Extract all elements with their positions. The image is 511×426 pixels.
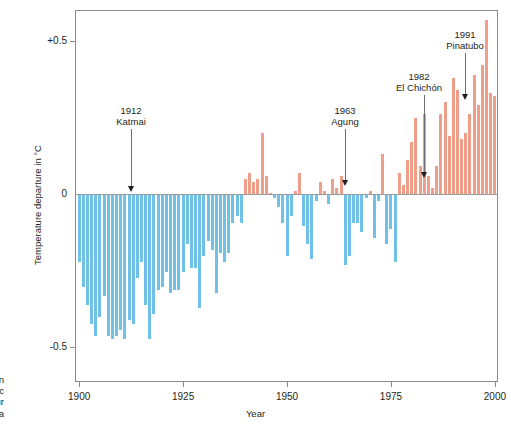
bar	[394, 195, 397, 262]
bar	[427, 176, 430, 194]
bar	[306, 195, 309, 244]
bar	[323, 191, 326, 194]
bar	[493, 96, 496, 194]
bar	[439, 114, 442, 194]
bar	[286, 195, 289, 256]
bar	[161, 195, 164, 287]
bar	[414, 118, 417, 195]
bar	[373, 195, 376, 238]
annotation-year: 1912	[71, 105, 191, 116]
bar	[211, 195, 214, 250]
annotation-arrowhead-icon	[462, 94, 468, 100]
bar	[94, 195, 97, 336]
bar	[82, 195, 85, 287]
bar	[315, 195, 318, 201]
bar	[98, 195, 101, 317]
bar	[444, 102, 447, 194]
x-tick-label: 1975	[366, 391, 416, 402]
bar	[256, 179, 259, 194]
bar	[136, 195, 139, 278]
figure-temperature-departure: ten nic fur a Temperature departure in °…	[0, 0, 511, 426]
bar	[273, 195, 276, 198]
bar	[381, 154, 384, 194]
bar	[144, 195, 147, 305]
bar	[169, 195, 172, 293]
bar	[198, 195, 201, 308]
bar	[269, 193, 272, 194]
annotation-event: El Chichón	[359, 82, 479, 93]
bar	[435, 166, 438, 194]
bar	[460, 139, 463, 194]
bar	[78, 195, 81, 262]
bar	[456, 90, 459, 194]
bar	[448, 136, 451, 194]
bar	[252, 182, 255, 194]
bar	[227, 195, 230, 253]
bar	[477, 105, 480, 194]
x-tick-mark	[183, 382, 184, 387]
annotation-arrowhead-icon	[421, 172, 427, 178]
bar	[115, 195, 118, 336]
bar	[294, 191, 297, 194]
y-tick-label: +0.5	[27, 35, 67, 46]
bar	[431, 188, 434, 194]
bar	[281, 195, 284, 223]
annotation-event: Katmai	[71, 116, 191, 127]
bar	[290, 195, 293, 216]
bar	[335, 188, 338, 194]
bar	[356, 195, 359, 223]
bar	[402, 185, 405, 194]
y-tick-label: 0	[27, 188, 67, 199]
bar	[389, 195, 392, 229]
bar	[348, 195, 351, 256]
annotation-katmai: 1912Katmai	[71, 105, 191, 127]
annotation-leader-line	[465, 53, 466, 94]
annotation-year: 1963	[285, 105, 405, 116]
bar	[310, 195, 313, 259]
annotation-year: 1991	[405, 29, 511, 40]
bar	[365, 195, 368, 198]
bar	[219, 195, 222, 253]
annotation-leader-line	[345, 129, 346, 180]
bar	[240, 195, 243, 223]
bar	[344, 195, 347, 265]
bar	[377, 195, 380, 201]
bar	[406, 160, 409, 194]
bar	[165, 195, 168, 272]
bar	[157, 195, 160, 290]
annotation-leader-line	[424, 95, 425, 172]
bar	[207, 195, 210, 241]
bar	[331, 179, 334, 194]
x-tick-mark	[79, 382, 80, 387]
x-tick-mark	[495, 382, 496, 387]
x-tick-mark	[391, 382, 392, 387]
bar	[123, 195, 126, 339]
bar	[352, 195, 355, 223]
bar	[261, 133, 264, 194]
bar	[298, 173, 301, 194]
bar	[186, 195, 189, 244]
bar	[265, 176, 268, 194]
bar	[86, 195, 89, 305]
bar	[132, 195, 135, 324]
bar	[398, 173, 401, 194]
x-tick-label: 2000	[470, 391, 511, 402]
bar	[481, 65, 484, 194]
bar	[107, 195, 110, 336]
annotation-el-chich-n: 1982El Chichón	[359, 71, 479, 93]
x-tick-label: 1925	[158, 391, 208, 402]
bar	[148, 195, 151, 339]
bar	[202, 195, 205, 256]
bar	[319, 182, 322, 194]
bar	[182, 195, 185, 272]
bar	[277, 195, 280, 207]
annotation-pinatubo: 1991Pinatubo	[405, 29, 511, 51]
bar	[190, 195, 193, 268]
bar	[327, 195, 330, 204]
bar	[128, 195, 131, 320]
bar	[173, 195, 176, 290]
bar	[90, 195, 93, 324]
annotation-event: Pinatubo	[405, 40, 511, 51]
bar	[194, 195, 197, 268]
bar	[452, 78, 455, 194]
